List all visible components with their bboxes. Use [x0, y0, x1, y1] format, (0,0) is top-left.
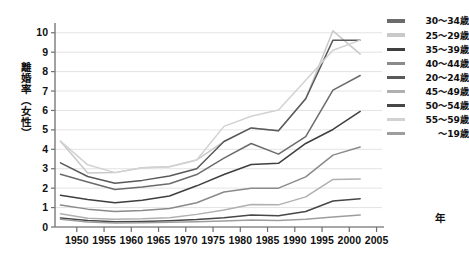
x-tick-label: 1980	[229, 234, 253, 246]
legend-item: 〜19歳	[387, 127, 469, 141]
x-tick-label: 1975	[201, 234, 225, 246]
y-tick-label: 3	[42, 162, 48, 174]
y-axis-ticks: 012345678910	[36, 26, 55, 232]
chart-page: 離婚率（女性） 012345678910 1950195519601965197…	[0, 0, 469, 257]
y-tick-label: 10	[36, 26, 48, 38]
x-tick-label: 2005	[365, 234, 389, 246]
data-series-group	[60, 31, 360, 223]
x-axis-title: 年	[435, 212, 446, 224]
legend-swatch	[387, 19, 405, 22]
chart-legend: 30〜34歳25〜29歳35〜39歳40〜44歳20〜24歳45〜49歳50〜5…	[387, 14, 469, 141]
x-tick-label: 1995	[310, 234, 334, 246]
y-tick-label: 7	[42, 85, 48, 97]
legend-label: 30〜34歳	[409, 16, 469, 25]
legend-item: 20〜24歳	[387, 70, 469, 84]
x-tick-label: 1960	[120, 234, 144, 246]
y-tick-label: 1	[42, 201, 48, 213]
y-tick-label: 6	[42, 104, 48, 116]
series-line	[60, 179, 360, 219]
legend-swatch	[387, 90, 405, 93]
legend-item: 25〜29歳	[387, 28, 469, 42]
legend-swatch	[387, 118, 405, 121]
legend-label: 25〜29歳	[409, 31, 469, 40]
legend-swatch	[387, 132, 405, 135]
y-tick-label: 2	[42, 182, 48, 194]
y-tick-label: 0	[42, 221, 48, 233]
legend-label: 55〜59歳	[409, 115, 469, 124]
legend-item: 50〜54歳	[387, 99, 469, 113]
legend-item: 45〜49歳	[387, 84, 469, 98]
legend-swatch	[387, 33, 405, 36]
x-axis-ticks: 1950195519601965197019751980198519901995…	[65, 227, 388, 246]
x-tick-label: 1970	[174, 234, 198, 246]
x-tick-label: 2000	[338, 234, 362, 246]
series-line	[60, 40, 360, 172]
legend-label: 50〜54歳	[409, 101, 469, 110]
series-line	[60, 40, 360, 183]
legend-label: 〜19歳	[409, 129, 469, 138]
y-tick-label: 8	[42, 65, 48, 77]
legend-swatch	[387, 104, 405, 107]
x-tick-label: 1990	[283, 234, 307, 246]
legend-item: 35〜39歳	[387, 42, 469, 56]
legend-item: 40〜44歳	[387, 56, 469, 70]
x-tick-label: 1965	[147, 234, 171, 246]
axis-lines	[55, 23, 384, 227]
legend-swatch	[387, 48, 405, 51]
legend-label: 35〜39歳	[409, 45, 469, 54]
legend-swatch	[387, 76, 405, 79]
y-tick-label: 4	[42, 143, 48, 155]
legend-item: 55〜59歳	[387, 113, 469, 127]
x-tick-label: 1985	[256, 234, 280, 246]
legend-item: 30〜34歳	[387, 14, 469, 28]
legend-label: 40〜44歳	[409, 59, 469, 68]
legend-label: 20〜24歳	[409, 73, 469, 82]
y-tick-label: 9	[42, 46, 48, 58]
x-tick-label: 1950	[65, 234, 89, 246]
y-tick-label: 5	[42, 123, 48, 135]
legend-swatch	[387, 62, 405, 65]
legend-label: 45〜49歳	[409, 87, 469, 96]
gridlines	[55, 33, 382, 208]
series-line	[60, 111, 360, 202]
x-tick-label: 1955	[92, 234, 116, 246]
